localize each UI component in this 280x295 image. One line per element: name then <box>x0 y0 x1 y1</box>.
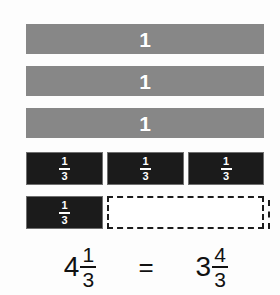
third-segment-divider <box>268 200 270 229</box>
fraction-bar-model: 1 1 1 1 3 1 3 1 3 <box>0 0 280 295</box>
whole-unit-bar: 1 <box>26 108 264 138</box>
equals-sign: = <box>138 254 153 280</box>
fraction-denominator: 3 <box>214 268 226 290</box>
fraction-denominator: 3 <box>61 170 67 182</box>
fraction-numerator: 1 <box>223 156 229 168</box>
fraction-one-third: 1 3 <box>59 156 70 182</box>
fraction-one-third: 1 3 <box>59 200 70 226</box>
whole-unit-label: 1 <box>139 29 151 50</box>
fraction-one-third: 1 3 <box>221 156 232 182</box>
equation-right-fraction: 4 3 <box>212 244 228 290</box>
third-segment-filled: 1 3 <box>188 152 264 185</box>
equation-left-fraction: 1 3 <box>80 244 96 290</box>
equation-left-term: 4 1 3 <box>64 244 97 290</box>
full-thirds-row: 1 3 1 3 1 3 <box>26 152 264 185</box>
third-segment-empty-group <box>107 196 264 229</box>
fraction-numerator: 4 <box>214 244 226 266</box>
fraction-numerator: 1 <box>61 156 67 168</box>
equation-right-term: 3 4 3 <box>196 244 229 290</box>
fraction-one-third: 1 3 <box>140 156 151 182</box>
equation-left-whole: 4 <box>64 253 81 281</box>
third-segment-filled: 1 3 <box>26 152 103 185</box>
fraction-denominator: 3 <box>223 170 229 182</box>
fraction-numerator: 1 <box>142 156 148 168</box>
whole-unit-bar: 1 <box>26 66 264 96</box>
whole-unit-label: 1 <box>139 113 151 134</box>
fraction-denominator: 3 <box>83 268 95 290</box>
partial-thirds-row: 1 3 <box>26 196 264 229</box>
third-segment-filled: 1 3 <box>107 152 184 185</box>
fraction-denominator: 3 <box>61 214 67 226</box>
third-segment-filled: 1 3 <box>26 196 103 229</box>
equation-right-whole: 3 <box>196 253 213 281</box>
whole-unit-bar: 1 <box>26 24 264 54</box>
fraction-numerator: 1 <box>83 244 95 266</box>
fraction-numerator: 1 <box>61 200 67 212</box>
equation: 4 1 3 = 3 4 3 <box>0 238 280 295</box>
whole-unit-label: 1 <box>139 71 151 92</box>
fraction-denominator: 3 <box>142 170 148 182</box>
